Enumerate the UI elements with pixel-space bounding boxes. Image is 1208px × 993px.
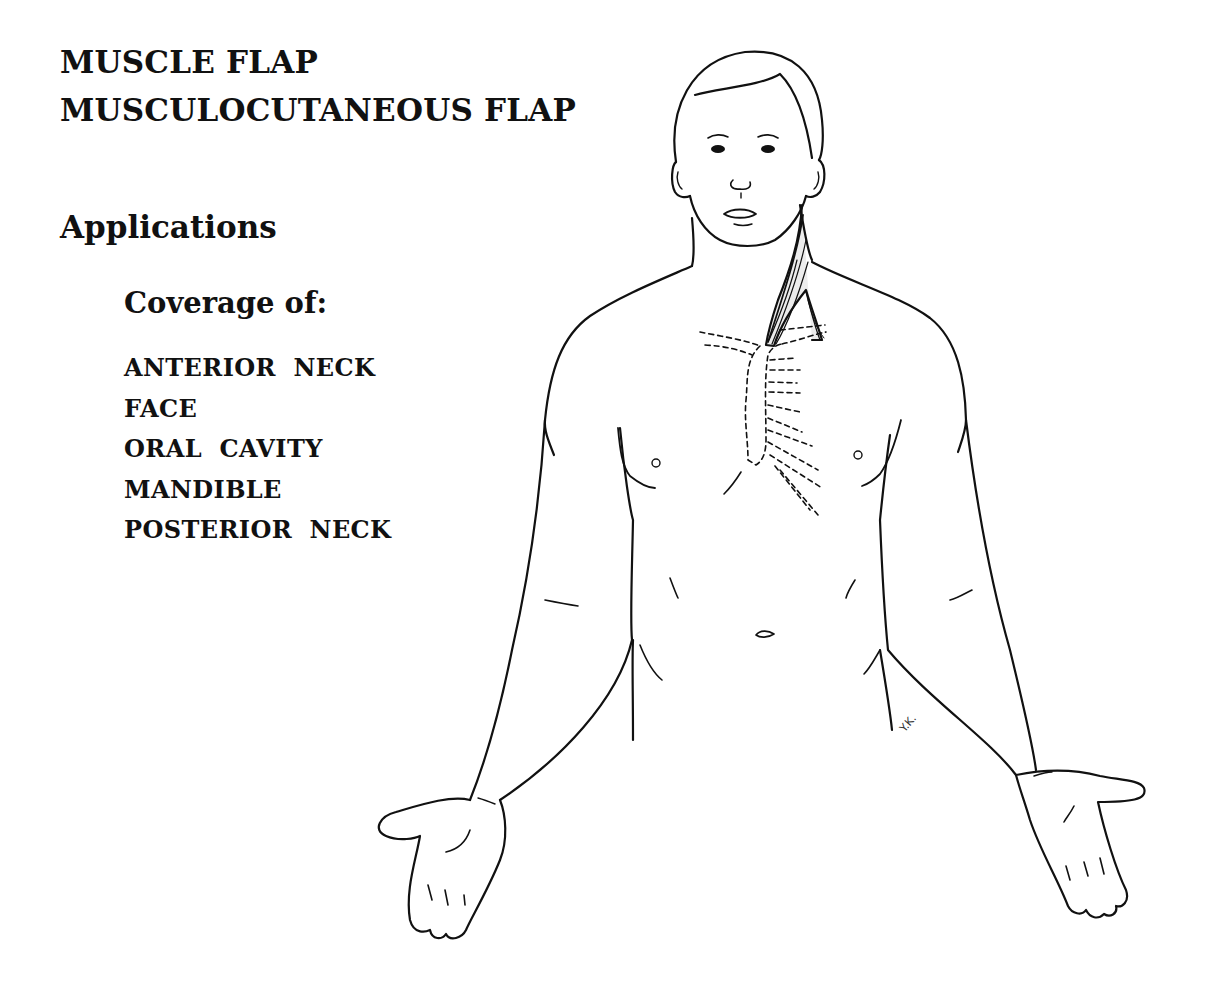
right-hand-drawing	[1016, 771, 1145, 918]
left-hand-drawing	[379, 798, 505, 938]
artist-signature: Y.K.	[896, 712, 919, 735]
sternum-ribs-dashed	[700, 325, 826, 515]
muscle-flap-drawing	[766, 205, 824, 346]
body-illustration: Y.K.	[0, 0, 1208, 993]
torso-drawing: Y.K.	[470, 262, 1036, 800]
